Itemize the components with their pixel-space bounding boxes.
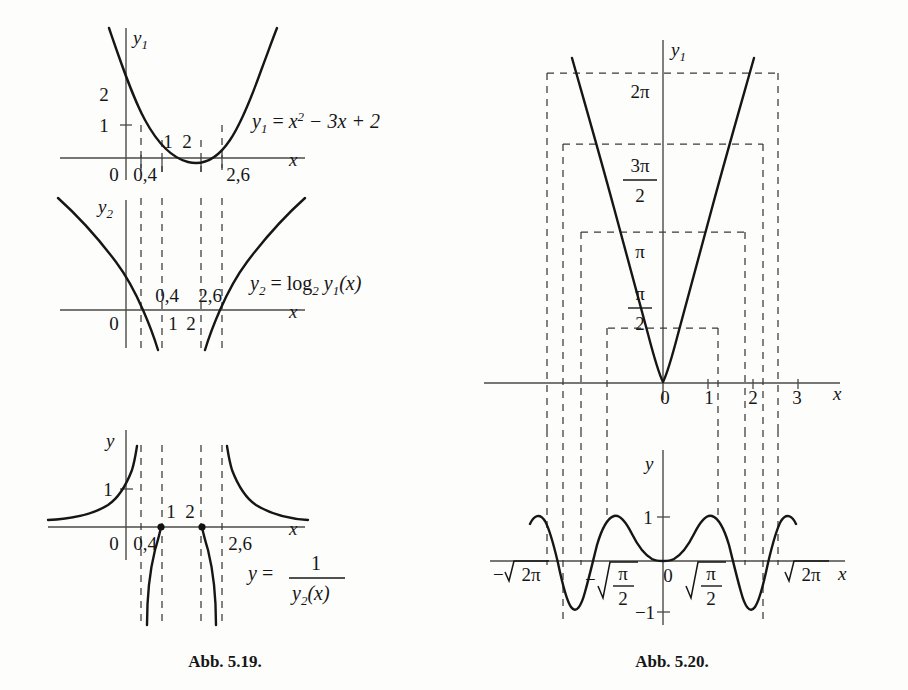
xtick-label-04-bottom-left: 0,4 [133, 533, 157, 554]
axis-label-y-bottom-right: y [643, 453, 654, 474]
xtick-label-26-bottom-left: 2,6 [228, 533, 252, 554]
ytick-label-pi-top-right: π [635, 241, 645, 262]
label-26-middle-left: 2,6 [198, 285, 222, 306]
neg-sqrtpi2-numerator: π [618, 563, 628, 584]
sqrtpi2-denominator: 2 [706, 588, 716, 609]
curve-recip-branch-d [227, 446, 308, 520]
ytick-label-neg1-bottom-right: −1 [635, 602, 655, 623]
ytick-label-pi-over-2-top-right: π 2 [628, 283, 652, 334]
xtick-label-sqrt-pi-over-2: π 2 [686, 562, 726, 609]
figure-svg: y1 x 2 1 0 0,4 2,6 1 2 y1 = x2 − 3x + 2 [0, 0, 908, 690]
ytick-pi2-denominator: 2 [635, 313, 645, 334]
ytick-3pi2-denominator: 2 [635, 185, 645, 206]
axis-label-y2-middle-left: y2 [96, 196, 113, 221]
caption-abb-5-19: Abb. 5.19. [188, 652, 262, 671]
ytick-label-1-top-left: 1 [99, 115, 109, 136]
caption-abb-5-20: Abb. 5.20. [635, 652, 709, 671]
ytick-label-3pi-over-2-top-right: 3π 2 [623, 155, 657, 206]
panel-bottom-left: y x 1 0 0,4 2,6 1 2 y = 1 y2(x) [48, 430, 345, 625]
panel-middle-left: y2 x 0 0,4 2,6 1 2 y2 = log2 y1(x) [58, 196, 362, 352]
panel-top-right: y1 x 0 1 2 3 2π 3π 2 π π 2 [484, 39, 842, 430]
xtick-label-sqrt-2pi: 2π [785, 561, 829, 585]
xtick-label-neg-sqrt-pi-over-2: − π 2 [585, 562, 638, 609]
xtick-label-2-top-right: 2 [748, 387, 758, 408]
xtick-label-2-top-left: 2 [182, 131, 192, 152]
xtick-label-3-top-right: 3 [792, 387, 802, 408]
xtick-label-1-top-right: 1 [704, 387, 714, 408]
curve-recip-branch-a [48, 446, 137, 520]
xtick-label-0-top-right: 0 [660, 387, 670, 408]
equation-top-left: y1 = x2 − 3x + 2 [250, 109, 380, 136]
xtick-label-04-top-left: 0,4 [133, 164, 157, 185]
curve-recip-branch-c [202, 527, 216, 625]
origin-label-bottom-right: 0 [663, 565, 673, 586]
equation-lhs-bottom-left: y = [246, 562, 273, 585]
ytick-label-1-bottom-right: 1 [643, 507, 653, 528]
label-04-middle-left: 0,4 [155, 285, 179, 306]
figure-root: y1 x 2 1 0 0,4 2,6 1 2 y1 = x2 − 3x + 2 [0, 0, 908, 690]
marked-point-x1-bottom-left [157, 523, 164, 530]
ytick-label-1-bottom-left: 1 [103, 479, 113, 500]
label-1-middle-left: 1 [168, 313, 178, 334]
equation-numerator-bottom-left: 1 [311, 552, 321, 574]
ytick-label-2-top-left: 2 [99, 84, 109, 105]
ytick-label-2pi-top-right: 2π [630, 81, 650, 102]
axis-label-x-bottom-left: x [288, 518, 298, 539]
origin-label-bottom-left: 0 [109, 533, 119, 554]
xtick-label-26-top-left: 2,6 [226, 164, 250, 185]
ytick-pi2-numerator: π [635, 283, 645, 304]
panel-bottom-right: y x 1 −1 0 − 2π − π 2 π [490, 430, 847, 625]
equation-denominator-bottom-left: y2(x) [290, 582, 330, 608]
axis-label-y-bottom-left: y [104, 430, 115, 451]
xtick-label-1-top-left: 1 [163, 131, 173, 152]
equation-middle-left: y2 = log2 y1(x) [248, 272, 362, 298]
axis-label-x-middle-left: x [288, 301, 298, 322]
marked-point-x2-bottom-left [198, 523, 205, 530]
origin-label-middle-left: 0 [109, 313, 119, 334]
equation-bottom-left: y = 1 y2(x) [246, 552, 345, 608]
axis-label-x-bottom-right: x [837, 563, 847, 584]
label-2-middle-left: 2 [186, 313, 196, 334]
axis-label-y1-top-left: y1 [131, 27, 148, 52]
neg-sqrtpi2-denominator: 2 [618, 588, 628, 609]
axis-label-x-top-left: x [288, 149, 298, 170]
axis-label-x-top-right: x [832, 383, 842, 404]
sqrt2pi-radicand: 2π [801, 564, 821, 585]
neg-sqrtpi2-sign: − [585, 569, 596, 590]
sqrtpi2-numerator: π [706, 563, 716, 584]
origin-label-top-left: 0 [109, 164, 119, 185]
panel-top-left: y1 x 2 1 0 0,4 2,6 1 2 y1 = x2 − 3x + 2 [60, 27, 380, 185]
neg-sqrt2pi-sign: − [493, 564, 504, 585]
xtick-label-1-bottom-left: 1 [166, 501, 176, 522]
xtick-label-2-bottom-left: 2 [185, 501, 195, 522]
curve-parabola-y1 [109, 28, 277, 163]
xtick-label-neg-sqrt-2pi: − 2π [493, 561, 549, 585]
neg-sqrt2pi-radicand: 2π [521, 564, 541, 585]
ytick-3pi2-numerator: 3π [630, 155, 650, 176]
axis-label-y1-top-right: y1 [669, 39, 686, 64]
